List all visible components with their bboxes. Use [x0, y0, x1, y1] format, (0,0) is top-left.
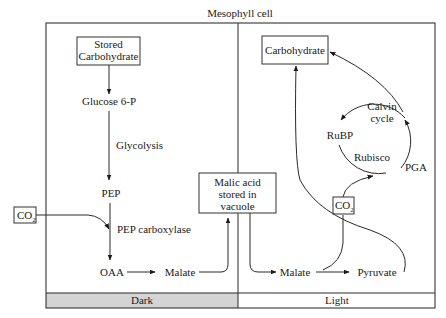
pyruvate-label: Pyruvate — [357, 266, 396, 278]
malate-light-label: Malate — [280, 266, 311, 278]
arrow-co2-to-carboxylase — [36, 215, 109, 229]
stored-carbohydrate-line2: Carbohydrate — [79, 50, 139, 62]
malic-acid-line3: vacuole — [220, 200, 254, 212]
calvin-line2: cycle — [370, 112, 393, 124]
oaa-label: OAA — [100, 266, 124, 278]
glycolysis-label: Glycolysis — [116, 139, 163, 151]
pep-carboxylase-label: PEP carboxylase — [117, 223, 191, 235]
cam-pathway-diagram: Mesophyll cell Dark Light Stored Carbohy… — [0, 0, 446, 318]
malic-acid-line2: stored in — [218, 188, 257, 200]
diagram-title: Mesophyll cell — [207, 7, 273, 19]
rubisco-label: Rubisco — [354, 151, 391, 163]
line-malate-to-co2 — [323, 215, 343, 270]
glucose6p-label: Glucose 6-P — [82, 95, 136, 107]
light-label: Light — [325, 294, 349, 306]
pga-label: PGA — [405, 161, 427, 173]
arrow-vacuole-to-malate — [250, 213, 276, 272]
rubp-label: RuBP — [327, 129, 353, 141]
pep-label: PEP — [102, 187, 121, 199]
malate-dark-label: Malate — [165, 266, 196, 278]
stored-carbohydrate-line1: Stored — [94, 38, 123, 50]
carbohydrate-label: Carbohydrate — [265, 44, 325, 56]
arrow-pyruvate-to-carbohydrate — [296, 66, 406, 272]
arrow-malate-to-vacuole — [199, 218, 228, 272]
dark-label: Dark — [131, 294, 153, 306]
malic-acid-line1: Malic acid — [214, 176, 261, 188]
arrow-co2-to-pga — [343, 176, 373, 197]
calvin-line1: Calvin — [367, 100, 397, 112]
